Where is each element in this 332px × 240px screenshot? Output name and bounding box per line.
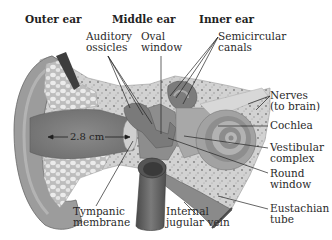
section-header-middle-ear: Middle ear — [112, 13, 176, 25]
label-semicircular-canals: Semicircular canals — [218, 31, 286, 53]
canal-length-label: 2.8 cm — [70, 131, 104, 142]
label-tympanic-membrane: Tympanic membrane — [73, 206, 130, 228]
cartilage-lower — [44, 155, 110, 208]
label-oval-window: Oval window — [141, 31, 182, 53]
label-auditory-ossicles: Auditory ossicles — [86, 31, 132, 53]
section-header-outer-ear: Outer ear — [25, 13, 82, 25]
label-nerves: Nerves (to brain) — [270, 90, 320, 112]
label-eustachian-tube: Eustachian tube — [270, 203, 329, 225]
label-cochlea: Cochlea — [270, 120, 313, 131]
label-round-window: Round window — [270, 168, 311, 190]
cochlea-shape — [196, 110, 256, 170]
label-internal-jugular-vein: Internal jugular vein — [166, 206, 230, 228]
label-vestibular-complex: Vestibular complex — [270, 142, 324, 164]
section-header-inner-ear: Inner ear — [199, 13, 254, 25]
